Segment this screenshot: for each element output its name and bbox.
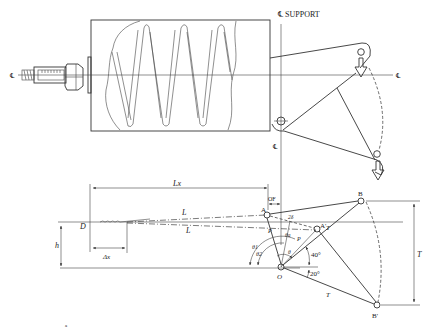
point-B-prime <box>374 302 380 308</box>
cutaway-right-edge <box>228 21 236 130</box>
theta-1-label: θ1 <box>252 244 258 250</box>
B-prime-label: B' <box>372 312 378 320</box>
lever-diagonal <box>283 73 356 130</box>
travel-arc-lower <box>366 202 381 302</box>
centerline-left-label: ℄ <box>9 72 15 80</box>
angle-40-label: 40° <box>311 251 321 259</box>
theta-2-label: θ2 <box>256 251 262 257</box>
travel-arc-upper <box>369 68 383 150</box>
T-lower-label: T <box>326 291 331 299</box>
lower-pin <box>374 151 381 158</box>
theta-label: θ <box>288 249 291 255</box>
pivot-centerline-label: ℄ <box>272 143 278 151</box>
kinematic-geometry: Lx OF h D Δx L L A A' B B' O <box>55 179 422 328</box>
cutaway-left-edge <box>106 21 140 130</box>
support-centerline-label: ℄ SUPPORT <box>277 10 320 19</box>
Lx-label: Lx <box>172 179 181 188</box>
T-right-label: T <box>417 250 422 259</box>
centerline-right-label: ℄ <box>395 72 401 80</box>
h-label: h <box>55 241 59 250</box>
L-upper-label: L <box>181 208 187 217</box>
spring-can-assembly: ℄ ℄ <box>9 20 401 131</box>
angle-20-label: 20° <box>310 270 320 278</box>
A-label: A <box>261 206 266 214</box>
rod-line-L-lower <box>127 223 316 230</box>
P-left-label: P <box>267 228 272 234</box>
spring-hanger-diagram: ℄ ℄ ℄ SUPPORT ℄ Lx OF h <box>0 0 435 328</box>
delta-x-label: Δx <box>102 253 111 261</box>
spring-housing <box>91 20 270 131</box>
lever-lower-arm <box>272 124 383 175</box>
rod-line-L-upper <box>127 215 266 222</box>
footnote-mark: a <box>65 323 68 328</box>
T-upper-label: T <box>326 224 331 232</box>
O-label: O <box>277 273 282 281</box>
B-label: B <box>358 190 363 198</box>
P-right-label: P <box>296 236 301 242</box>
bell-crank-lever <box>270 43 384 180</box>
lever-upper-arm <box>270 43 370 68</box>
D-label: D <box>79 222 86 231</box>
L-lower-label: L <box>185 226 191 235</box>
spring-coil-outer <box>112 25 232 127</box>
two-delta-label: 2δ <box>288 214 294 220</box>
OF-label: OF <box>268 196 276 202</box>
upper-pin <box>358 49 365 56</box>
